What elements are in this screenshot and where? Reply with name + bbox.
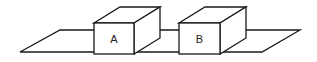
box-a-label: A	[110, 33, 118, 45]
box-b-label: B	[196, 33, 203, 45]
diagram-canvas: A B	[0, 0, 317, 62]
